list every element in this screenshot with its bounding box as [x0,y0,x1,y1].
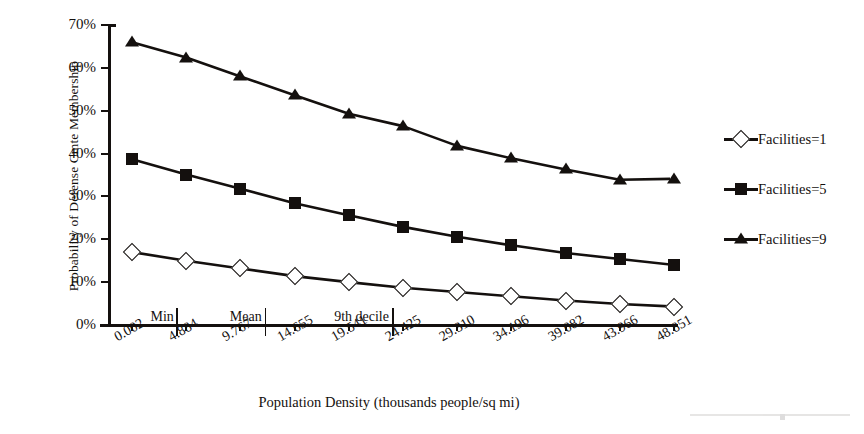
y-tick-label: 10% [42,274,96,289]
data-point-marker [450,139,464,150]
data-point-marker [288,89,302,100]
data-point-marker [613,173,627,184]
series-markers [108,25,670,325]
legend-item-2[interactable]: Facilities=5 [724,180,827,198]
data-point-marker [504,152,518,163]
legend-label: Facilities=9 [758,232,827,247]
scan-artifact-dot [780,414,785,420]
data-point-marker [231,259,249,277]
y-tick-label: 0% [42,317,96,332]
data-point-marker [611,295,629,313]
legend-item-3[interactable]: Facilities=9 [724,230,827,248]
data-point-marker [180,169,192,181]
data-point-marker [397,221,409,233]
legend-marker-icon [724,232,758,246]
y-tick-label: 70% [42,17,96,32]
data-point-marker [667,172,681,183]
data-point-marker [396,120,410,131]
data-point-marker [668,259,680,271]
y-tick-label: 50% [42,103,96,118]
data-point-marker [394,279,412,297]
data-point-marker [126,153,138,165]
data-point-marker [559,163,573,174]
data-point-marker [556,291,574,309]
data-point-marker [614,253,626,265]
data-point-marker [665,297,683,315]
data-point-marker [179,51,193,62]
legend-marker-icon [724,132,758,146]
data-point-marker [123,243,141,261]
legend-marker-icon [724,182,758,196]
legend-label: Facilities=1 [758,132,827,147]
x-axis-title: Population Density (thousands people/sq … [108,394,670,411]
data-point-marker [289,197,301,209]
y-tick-label: 40% [42,146,96,161]
chart-container: Probability of Defense Cmte Membership 0… [0,0,864,434]
data-point-marker [448,283,466,301]
y-tick-label: 60% [42,60,96,75]
data-point-marker [233,70,247,81]
y-tick-label: 20% [42,231,96,246]
data-point-marker [505,239,517,251]
legend-item-1[interactable]: Facilities=1 [724,130,827,148]
data-point-marker [340,273,358,291]
data-point-marker [342,107,356,118]
data-point-marker [451,231,463,243]
scan-artifact [0,414,864,418]
scan-artifact-line [690,414,850,416]
data-point-marker [234,183,246,195]
data-point-marker [502,287,520,305]
data-point-marker [285,267,303,285]
data-point-marker [560,247,572,259]
data-point-marker [125,36,139,47]
data-point-marker [177,252,195,270]
data-point-marker [343,209,355,221]
legend-label: Facilities=5 [758,182,827,197]
y-tick-label: 30% [42,188,96,203]
